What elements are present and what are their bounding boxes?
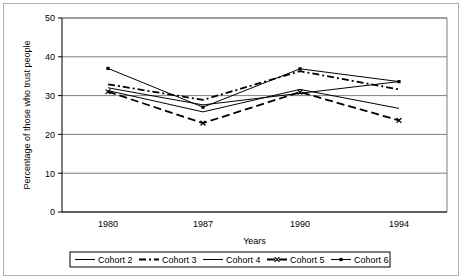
legend-label: Cohort 5 bbox=[290, 255, 325, 265]
x-axis-tick-label: 1980 bbox=[98, 219, 118, 229]
data-point-marker bbox=[298, 67, 301, 70]
legend-label: Cohort 4 bbox=[226, 255, 261, 265]
y-axis-tick-label: 50 bbox=[45, 13, 55, 23]
y-axis-tick-label: 0 bbox=[50, 207, 55, 217]
legend-marker bbox=[339, 258, 342, 261]
y-axis-tick-label: 20 bbox=[45, 130, 55, 140]
legend-label: Cohort 6 bbox=[354, 255, 389, 265]
chart-background bbox=[0, 0, 462, 279]
chart-container: 01020304050 1980198719901994 Years Perce… bbox=[0, 0, 462, 279]
line-chart: 01020304050 1980198719901994 Years Perce… bbox=[0, 0, 462, 279]
legend: Cohort 2Cohort 3Cohort 4Cohort 5Cohort 6 bbox=[70, 252, 390, 267]
x-axis-tick-label: 1990 bbox=[290, 219, 310, 229]
y-axis-tick-label: 40 bbox=[45, 52, 55, 62]
y-axis-tick-label: 10 bbox=[45, 169, 55, 179]
x-axis-title: Years bbox=[243, 236, 266, 246]
data-point-marker bbox=[201, 106, 204, 109]
legend-label: Cohort 2 bbox=[98, 255, 133, 265]
y-axis-tick-label: 30 bbox=[45, 91, 55, 101]
legend-label: Cohort 3 bbox=[162, 255, 197, 265]
data-point-marker bbox=[106, 67, 109, 70]
x-axis-tick-label: 1994 bbox=[389, 219, 409, 229]
y-axis-title: Percentage of those who trust people bbox=[22, 40, 32, 189]
data-point-marker bbox=[397, 80, 400, 83]
x-axis-tick-label: 1987 bbox=[193, 219, 213, 229]
